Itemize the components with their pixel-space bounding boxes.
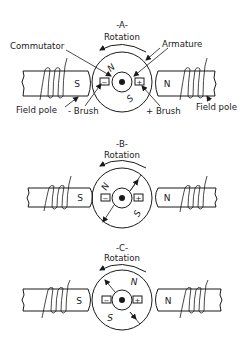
coil-icon [42,280,70,318]
svg-text:−: − [103,195,109,203]
panel-b-rotation-label: Rotation [104,150,140,160]
panel-b-title: -B- [116,139,128,149]
pole-letter-s: S [76,296,82,306]
panel-b: -B- Rotation S N − + N S [27,139,217,228]
panel-a-rotation-label: Rotation [104,32,140,42]
rotation-arrow-icon [100,264,146,272]
coil-side-marker [103,205,114,222]
svg-text:−: − [102,79,108,87]
callout-arrow-icon [146,48,160,60]
armature: − + N S [92,168,152,228]
armature-north: N [105,62,117,74]
field-pole-right: N [156,58,217,100]
pole-letter-s: S [77,193,83,203]
panel-a-title: -A- [116,20,128,30]
panel-c-title: -C- [116,243,128,253]
callout-field-pole-left: Field pole [16,105,57,115]
shaft-icon [119,195,125,201]
callout-armature: Armature [162,39,202,49]
pole-letter-n: N [164,79,171,89]
armature-north: N [99,181,111,192]
callout-arrow-icon [134,48,168,76]
svg-text:−: − [104,297,110,305]
armature-south: S [107,313,113,323]
coil-icon [180,58,207,100]
callout-commutator: Commutator [10,41,65,51]
current-arrow-icon [130,312,136,319]
coil-icon [180,280,208,318]
current-arrow-icon [105,280,115,292]
callout-neg-brush: - Brush [68,106,99,116]
rotation-arrow-icon [100,160,146,168]
callout-field-pole-right: Field pole [196,102,237,112]
panel-c-rotation-label: Rotation [104,253,140,263]
armature-south: S [132,208,144,218]
pole-letter-n: N [165,296,172,306]
panel-c: -C- Rotation S N − + N S [22,243,222,330]
armature-south: S [125,93,136,105]
field-pole-left: S [27,176,93,211]
svg-text:+: + [137,79,143,87]
callout-arrow-icon [85,84,101,106]
field-pole-left: S [22,280,91,318]
svg-text:+: + [136,195,142,203]
armature: − + N S [92,52,152,112]
field-pole-right: N [156,280,223,318]
current-arrow-icon [130,180,138,191]
armature: − + N S [92,270,152,330]
armature-north: N [131,277,138,287]
pole-letter-n: N [164,193,171,203]
field-pole-right: N [156,176,218,212]
callout-arrow-icon [207,96,210,101]
dc-motor-diagram: -A- Rotation S N − + N S [0,0,244,337]
coil-icon [40,58,67,100]
coil-icon [44,176,71,211]
callout-pos-brush: + Brush [146,106,181,116]
field-pole-left: S [22,58,91,100]
rotation-arrow-icon [100,44,146,52]
pole-letter-s: S [74,79,80,89]
shaft-icon [119,297,125,303]
svg-text:+: + [135,297,141,305]
shaft-icon [119,79,125,85]
panel-a: -A- Rotation S N − + N S [10,20,237,116]
